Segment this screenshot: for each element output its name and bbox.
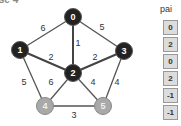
svg-text:1: 1: [17, 45, 22, 55]
graph-node-5: 5: [95, 98, 112, 115]
svg-text:3: 3: [121, 46, 126, 56]
pai-cell-2: 0: [163, 54, 178, 69]
edge-weight-0-2: 1: [75, 38, 80, 48]
graph-node-0: 0: [65, 9, 82, 26]
svg-text:5: 5: [100, 101, 105, 111]
edge-weight-2-4: 6: [48, 77, 53, 87]
graph-node-1: 1: [12, 42, 29, 59]
svg-text:4: 4: [42, 101, 47, 111]
edge-weight-1-4: 5: [21, 77, 26, 87]
pai-array-header: pai: [160, 4, 172, 14]
edge-weight-0-3: 5: [99, 22, 104, 32]
pai-cell-5: -1: [163, 105, 178, 120]
graph-diagram: 6512256443012345: [0, 0, 140, 126]
pai-cell-3: 2: [163, 71, 178, 86]
graph-node-2: 2: [65, 65, 82, 82]
graph-node-3: 3: [116, 43, 133, 60]
edge-weight-4-5: 3: [71, 110, 76, 120]
edge-weight-3-5: 4: [114, 77, 119, 87]
edge-weight-3-2: 2: [92, 52, 97, 62]
svg-text:0: 0: [70, 12, 75, 22]
pai-cell-4: -1: [163, 88, 178, 103]
pai-cell-0: 0: [163, 20, 178, 35]
edge-weight-2-5: 4: [90, 77, 95, 87]
pai-cell-1: 2: [163, 37, 178, 52]
pai-array: 0 2 0 2 -1 -1: [163, 20, 178, 122]
svg-text:2: 2: [70, 68, 75, 78]
edge-weight-0-1: 6: [40, 23, 45, 33]
edge-weight-1-2: 2: [48, 52, 53, 62]
graph-node-4: 4: [37, 98, 54, 115]
edge-0-1: [20, 17, 73, 50]
